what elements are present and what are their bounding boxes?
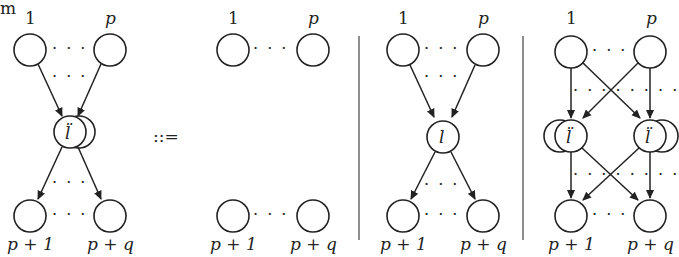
label-p: p <box>308 8 319 28</box>
corner-text: m <box>0 0 16 18</box>
output-node-pq <box>467 200 499 232</box>
panel-rhs-empty: 1 p · · · · · · p + 1 p + q <box>210 8 337 254</box>
input-node-p <box>634 36 666 68</box>
label-p-plus-q: p + q <box>627 234 674 254</box>
input-node-p <box>467 34 499 66</box>
label-p: p <box>105 8 116 28</box>
dots-edges-bottom: · · · <box>424 175 459 194</box>
label-p-plus-q: p + q <box>87 234 134 254</box>
input-node-p <box>94 34 126 66</box>
dots-top: · · · <box>424 39 459 58</box>
dots-edges-bottom: · · · <box>52 173 87 192</box>
dots-bottom: · · · <box>52 205 87 224</box>
label-p-plus-1: p + 1 <box>380 234 427 254</box>
output-node-p1 <box>387 200 419 232</box>
label-p-plus-q: p + q <box>460 234 507 254</box>
dots-top: · · · <box>52 39 87 58</box>
label-p-plus-1: p + 1 <box>210 234 257 254</box>
dots-edges-top: · · · <box>424 67 459 86</box>
dots-bottom: · · · <box>424 205 459 224</box>
input-node-1 <box>555 36 587 68</box>
dots-bottom: · · · <box>592 205 627 224</box>
diagram-canvas: m 1 p · · · · · · l̈ · · · · · · p + 1 p… <box>0 0 679 257</box>
label-p-plus-1: p + 1 <box>548 234 595 254</box>
definition-symbol: ::= <box>153 126 179 146</box>
output-node-pq <box>297 200 329 232</box>
dots-top: · · · <box>253 39 288 58</box>
label-p: p <box>478 8 489 28</box>
input-node-p <box>297 34 329 66</box>
dots-edges-bottom: · · · · · · · · <box>573 165 679 184</box>
input-node-1 <box>387 34 419 66</box>
label-1: 1 <box>228 8 239 28</box>
dots-edges-top: · · · <box>52 67 87 86</box>
label-p: p <box>646 8 657 28</box>
l-symbol: l <box>439 127 444 147</box>
dots-top: · · · <box>592 41 627 60</box>
label-1: 1 <box>398 8 409 28</box>
label-p-plus-1: p + 1 <box>7 234 54 254</box>
dots-edges-top: · · · · · · · · <box>573 81 679 100</box>
output-node-pq <box>634 200 666 232</box>
output-node-pq <box>94 200 126 232</box>
dots-bottom: · · · <box>253 205 288 224</box>
output-node-p1 <box>14 200 46 232</box>
panel-rhs-crossed: 1 p · · · · · · · · · · · l̈ l̈ · · · · … <box>544 8 679 254</box>
label-p-plus-q: p + q <box>290 234 337 254</box>
panel-lhs: 1 p · · · · · · l̈ · · · · · · p + 1 p +… <box>7 8 134 254</box>
input-node-1 <box>14 34 46 66</box>
output-node-p1 <box>217 200 249 232</box>
output-node-p1 <box>555 200 587 232</box>
input-node-1 <box>217 34 249 66</box>
label-1: 1 <box>566 8 577 28</box>
panel-rhs-single-l: 1 p · · · · · · l · · · · · · p + 1 p + … <box>380 8 507 254</box>
label-1: 1 <box>25 8 36 28</box>
